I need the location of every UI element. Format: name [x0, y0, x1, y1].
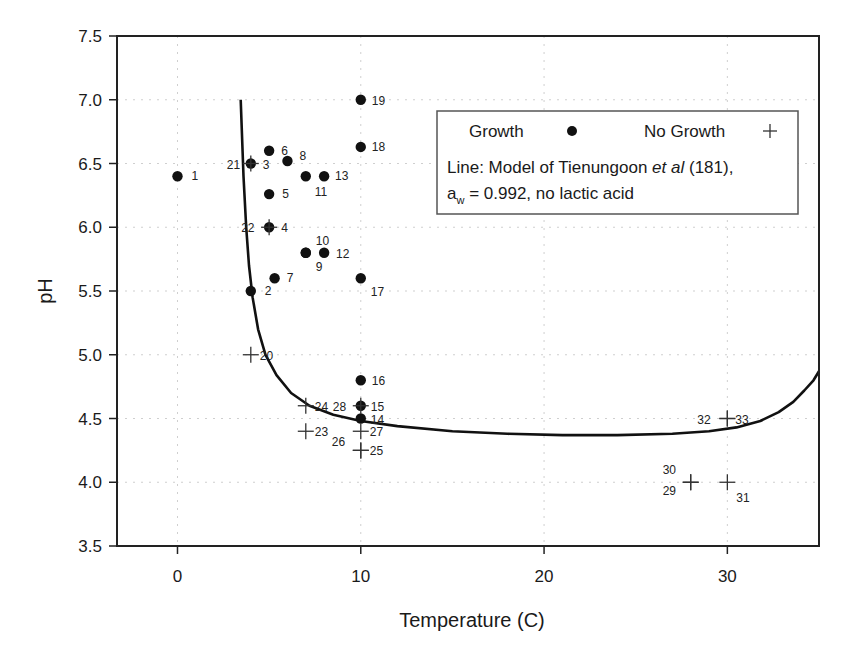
- growth-point-marker-icon: [264, 146, 274, 156]
- growth-point-marker-icon: [356, 273, 366, 283]
- point-label: 21: [227, 158, 241, 172]
- point-label: 16: [372, 374, 386, 388]
- growth-point-marker-icon: [301, 171, 311, 181]
- growth-point-marker-icon: [246, 286, 256, 296]
- point-label: 17: [371, 285, 385, 299]
- legend: Growth No Growth Line: Model of Tienungo…: [437, 111, 798, 214]
- point-label: 31: [736, 491, 750, 505]
- growth-point-marker-icon: [319, 171, 329, 181]
- point-label: 3: [263, 158, 270, 172]
- point-label: 18: [372, 140, 386, 154]
- no-growth-point-marker-icon: [261, 219, 277, 235]
- point-label: 32: [697, 413, 711, 427]
- point-label: 22: [241, 221, 255, 235]
- point-label: 1: [191, 169, 198, 183]
- point-label: 8: [299, 149, 306, 163]
- point-label: 12: [336, 247, 350, 261]
- point-label: 11: [315, 185, 328, 199]
- point-label: 27: [370, 425, 384, 439]
- y-tick-label: 6.5: [78, 155, 102, 174]
- legend-line-note: Line: Model of Tienungoon et al (181),: [447, 158, 733, 177]
- no-growth-point-marker-icon: [353, 398, 369, 414]
- legend-growth-marker-icon: [567, 126, 577, 136]
- point-label: 4: [281, 221, 288, 235]
- growth-point-marker-icon: [172, 171, 182, 181]
- growth-point-marker-icon: [269, 273, 279, 283]
- y-tick-label: 3.5: [78, 537, 102, 556]
- point-label: 5: [282, 187, 289, 201]
- growth-point-marker-icon: [356, 413, 366, 423]
- point-label: 33: [735, 413, 749, 427]
- point-label: 10: [316, 234, 330, 248]
- y-tick-label: 5.0: [78, 346, 102, 365]
- point-label: 7: [287, 271, 294, 285]
- point-label: 9: [316, 260, 323, 274]
- no-growth-point-marker-icon: [243, 347, 259, 363]
- x-tick-label: 0: [173, 567, 182, 586]
- point-label: 15: [371, 400, 385, 414]
- point-label: 23: [315, 425, 329, 439]
- point-label: 2: [265, 284, 272, 298]
- point-label: 19: [372, 94, 386, 108]
- point-label: 13: [335, 169, 349, 183]
- legend-no-growth-label: No Growth: [644, 122, 725, 141]
- point-label: 29: [663, 484, 677, 498]
- point-label: 28: [333, 400, 347, 414]
- x-tick-label: 10: [351, 567, 370, 586]
- scatter-chart: 1234567891011121314151617181920212223242…: [0, 0, 844, 659]
- no-growth-point-marker-icon: [719, 411, 735, 427]
- y-tick-label: 4.0: [78, 473, 102, 492]
- point-label: 20: [260, 349, 274, 363]
- x-axis: 0102030: [173, 546, 737, 586]
- growth-point-marker-icon: [301, 248, 311, 258]
- legend-line-note-2: aw = 0.992, no lactic acid: [447, 184, 634, 206]
- point-label: 26: [332, 435, 346, 449]
- x-axis-title: Temperature (C): [399, 609, 545, 631]
- y-tick-label: 4.5: [78, 410, 102, 429]
- no-growth-point-marker-icon: [719, 474, 735, 490]
- growth-point-marker-icon: [356, 95, 366, 105]
- y-tick-label: 7.5: [78, 27, 102, 46]
- no-growth-point-marker-icon: [683, 474, 699, 490]
- y-axis-title: pH: [34, 278, 56, 304]
- y-tick-label: 5.5: [78, 282, 102, 301]
- no-growth-point-marker-icon: [353, 442, 369, 458]
- point-label: 30: [663, 463, 677, 477]
- growth-point-marker-icon: [356, 142, 366, 152]
- growth-point-marker-icon: [264, 189, 274, 199]
- growth-point-marker-icon: [282, 156, 292, 166]
- no-growth-point-marker-icon: [243, 156, 259, 172]
- point-label: 6: [281, 144, 288, 158]
- no-growth-point-marker-icon: [298, 423, 314, 439]
- legend-growth-label: Growth: [469, 122, 524, 141]
- y-tick-label: 6.0: [78, 218, 102, 237]
- x-tick-label: 20: [535, 567, 554, 586]
- point-label: 24: [315, 400, 329, 414]
- y-tick-label: 7.0: [78, 91, 102, 110]
- point-label: 25: [370, 444, 384, 458]
- y-axis: 3.54.04.55.05.56.06.57.07.5: [78, 27, 117, 556]
- growth-point-marker-icon: [319, 248, 329, 258]
- no-growth-point-marker-icon: [353, 423, 369, 439]
- x-tick-label: 30: [718, 567, 737, 586]
- growth-point-marker-icon: [356, 375, 366, 385]
